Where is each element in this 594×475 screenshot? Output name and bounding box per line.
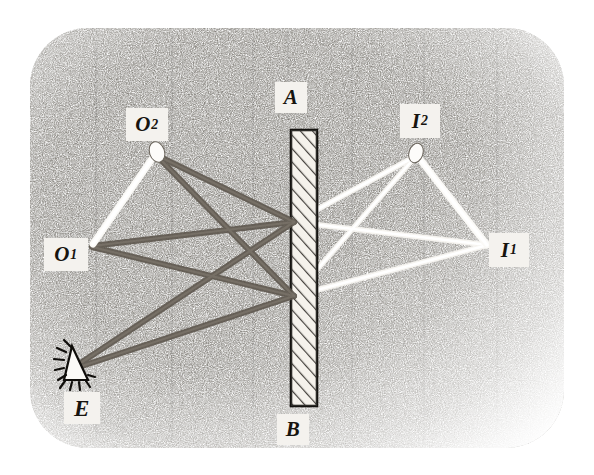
label-O1: O1 xyxy=(44,238,88,271)
label-A: A xyxy=(275,82,307,113)
label-E: E xyxy=(64,392,100,424)
label-O1-base: O xyxy=(54,244,70,265)
label-I2-base: I xyxy=(412,111,421,132)
label-A-text: A xyxy=(284,87,299,108)
label-O1-subscript: 1 xyxy=(70,248,78,262)
figure-root: A B O2 O1 I2 I1 E xyxy=(0,0,594,475)
mirror-AB xyxy=(291,130,317,406)
label-I2-subscript: 2 xyxy=(420,114,428,128)
label-I1: I1 xyxy=(489,233,529,267)
label-B: B xyxy=(277,414,309,445)
label-E-text: E xyxy=(74,397,90,420)
label-I1-subscript: 1 xyxy=(509,243,517,257)
label-B-text: B xyxy=(286,419,301,440)
label-O2: O2 xyxy=(126,108,168,141)
label-I2: I2 xyxy=(400,104,440,138)
label-O2-base: O xyxy=(135,114,151,135)
label-O2-subscript: 2 xyxy=(151,118,159,132)
label-I1-base: I xyxy=(501,240,510,261)
